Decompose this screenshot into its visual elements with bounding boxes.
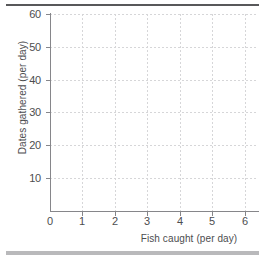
y-tick-mark-50 (46, 47, 51, 48)
x-tick-label-3: 3 (139, 215, 155, 227)
page-top-rule (6, 4, 259, 6)
y-axis-title: Dates gathered (per day) (17, 18, 28, 178)
x-tick-label-6: 6 (237, 215, 253, 227)
y-tick-mark-20 (46, 145, 51, 146)
x-tick-label-5: 5 (204, 215, 220, 227)
page-bottom-rule (6, 251, 259, 255)
y-tick-mark-60 (46, 14, 51, 15)
y-tick-mark-10 (46, 178, 51, 179)
gridline-vertical-5 (212, 14, 213, 211)
x-tick-label-4: 4 (172, 215, 188, 227)
x-tick-label-2: 2 (107, 215, 123, 227)
plot-area (50, 14, 258, 211)
y-tick-mark-40 (46, 80, 51, 81)
x-tick-label-0: 0 (42, 215, 58, 227)
gridline-vertical-3 (147, 14, 148, 211)
y-tick-mark-30 (46, 112, 51, 113)
x-axis-title: Fish caught (per day) (120, 233, 258, 244)
x-tick-label-1: 1 (74, 215, 90, 227)
gridline-vertical-4 (180, 14, 181, 211)
chart-figure: 60 50 40 30 20 10 0 1 2 3 4 5 6 Dates ga… (0, 0, 265, 259)
gridline-vertical-1 (82, 14, 83, 211)
gridline-vertical-2 (115, 14, 116, 211)
gridline-vertical-6 (245, 14, 246, 211)
